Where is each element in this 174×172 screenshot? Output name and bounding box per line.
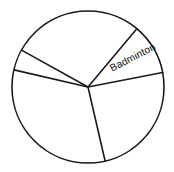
pie-chart-svg: Badminton (0, 0, 174, 172)
pie-chart-container: Badminton (0, 0, 174, 172)
